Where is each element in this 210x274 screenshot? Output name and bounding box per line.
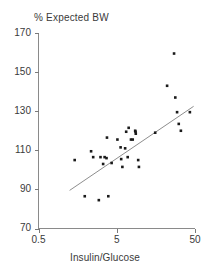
data-point [116, 138, 119, 141]
y-tick-label: 90 [5, 183, 31, 194]
data-point [90, 150, 93, 153]
data-point [174, 96, 177, 99]
x-tick-label: 0.5 [24, 234, 54, 245]
data-point [180, 129, 183, 132]
data-point [134, 132, 137, 135]
data-point [127, 127, 130, 130]
data-point [124, 147, 127, 150]
y-tick-label: 170 [5, 27, 31, 38]
data-point [154, 131, 157, 134]
data-point [106, 136, 109, 139]
data-point [131, 138, 134, 141]
data-point [166, 84, 169, 87]
data-point [120, 158, 123, 161]
y-tick-label: 70 [5, 222, 31, 233]
trend-line [70, 106, 194, 190]
y-tick-label: 150 [5, 66, 31, 77]
data-point [173, 52, 176, 55]
x-tick-label: 50 [180, 234, 210, 245]
data-point [189, 111, 192, 114]
data-point [177, 123, 180, 126]
data-point [98, 199, 101, 202]
regression-line [70, 106, 194, 190]
x-axis-ticks [40, 229, 196, 233]
y-axis-ticks [35, 34, 39, 230]
data-points [73, 52, 191, 201]
data-point [83, 195, 86, 198]
scatter-plot-figure: % Expected BW 7090110130150170 0.5550 In… [0, 0, 210, 274]
data-point [107, 195, 110, 198]
data-point [125, 130, 128, 133]
x-tick-label: 5 [102, 234, 132, 245]
data-point [102, 163, 105, 166]
data-point [105, 157, 108, 160]
data-point [92, 156, 95, 159]
data-point [110, 162, 113, 165]
data-point [73, 159, 76, 162]
axis-spines [39, 33, 196, 229]
y-tick-label: 110 [5, 144, 31, 155]
data-point [138, 166, 141, 169]
data-point [119, 146, 122, 149]
data-point [137, 159, 140, 162]
data-point [126, 156, 129, 159]
data-point [121, 166, 124, 169]
data-point [99, 156, 102, 159]
y-tick-label: 130 [5, 105, 31, 116]
x-axis-title: Insulin/Glucose [0, 252, 210, 263]
plot-canvas [0, 0, 210, 274]
data-point [176, 111, 179, 114]
